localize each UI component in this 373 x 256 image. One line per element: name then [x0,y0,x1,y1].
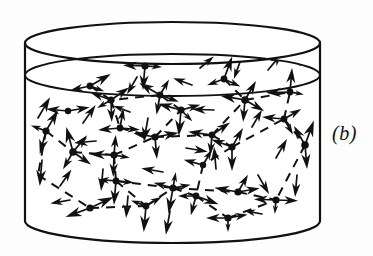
network-node [169,184,176,191]
figure-panel: (b) [0,0,373,256]
network-node [110,151,117,158]
network-node [151,133,158,140]
network-node [117,125,124,132]
network-node [272,196,279,203]
network-node [224,214,231,221]
network-node [234,188,241,195]
figure-illustration [0,0,373,256]
network-node [177,106,184,113]
network-node [241,96,249,104]
network-node [87,83,94,90]
network-node [221,76,228,83]
panel-label: (b) [332,122,357,145]
network-node [143,203,150,210]
network-node [193,193,200,200]
network-node [69,148,77,156]
network-node [65,108,71,114]
network-node [228,143,235,150]
network-node [107,96,114,103]
network-node [113,178,120,185]
network-node [200,162,206,168]
network-node [301,141,309,149]
network-node [209,132,216,139]
network-node [42,127,49,134]
network-node [281,116,288,123]
network-node [86,204,93,211]
network-node [287,89,294,96]
